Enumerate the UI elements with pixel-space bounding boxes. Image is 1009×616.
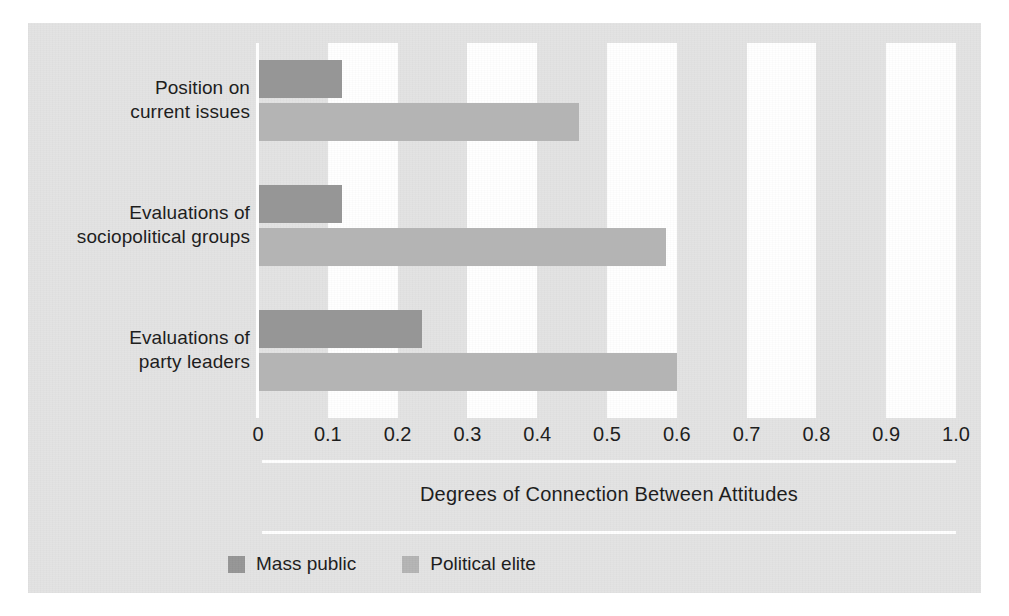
category-label-line: Evaluations of: [35, 326, 250, 350]
x-tick-label: 0.9: [872, 423, 900, 446]
legend-item: Political elite: [402, 553, 536, 575]
x-tick-label: 0.4: [523, 423, 551, 446]
bar-group: [258, 60, 956, 141]
bar-mass-public: [258, 310, 422, 348]
category-label: Position oncurrent issues: [35, 76, 250, 125]
x-axis-title: Degrees of Connection Between Attitudes: [262, 483, 956, 506]
category-label-line: sociopolitical groups: [35, 225, 250, 249]
bar-group: [258, 310, 956, 391]
x-tick-label: 0.5: [593, 423, 621, 446]
bar-political-elite: [258, 228, 666, 266]
chart-legend: Mass publicPolitical elite: [228, 553, 536, 575]
plot-area: [258, 43, 956, 418]
x-axis-tick-labels: 00.10.20.30.40.50.60.70.80.91.0: [258, 423, 956, 453]
legend-item: Mass public: [228, 553, 356, 575]
bar-mass-public: [258, 185, 342, 223]
bar-group: [258, 185, 956, 266]
x-tick-label: 0.3: [453, 423, 481, 446]
x-tick-label: 0.7: [733, 423, 761, 446]
bar-mass-public: [258, 60, 342, 98]
x-tick-label: 0.6: [663, 423, 691, 446]
y-axis-line: [256, 43, 259, 418]
legend-swatch-icon: [402, 556, 419, 573]
category-label: Evaluations ofparty leaders: [35, 326, 250, 375]
separator-rule-top: [262, 460, 956, 463]
x-tick-label: 0.8: [802, 423, 830, 446]
category-label-line: Evaluations of: [35, 201, 250, 225]
category-label-line: party leaders: [35, 350, 250, 374]
legend-label: Mass public: [256, 553, 356, 575]
x-tick-label: 0: [252, 423, 263, 446]
legend-label: Political elite: [430, 553, 536, 575]
category-label-line: Position on: [35, 76, 250, 100]
bar-political-elite: [258, 353, 677, 391]
legend-swatch-icon: [228, 556, 245, 573]
x-tick-label: 1.0: [942, 423, 970, 446]
category-axis-labels: Position oncurrent issuesEvaluations ofs…: [28, 43, 250, 418]
category-label: Evaluations ofsociopolitical groups: [35, 201, 250, 250]
x-tick-label: 0.1: [314, 423, 342, 446]
x-tick-label: 0.2: [384, 423, 412, 446]
separator-rule-bottom: [262, 531, 956, 534]
category-label-line: current issues: [35, 100, 250, 124]
bar-political-elite: [258, 103, 579, 141]
chart-figure: Position oncurrent issuesEvaluations ofs…: [28, 23, 981, 593]
